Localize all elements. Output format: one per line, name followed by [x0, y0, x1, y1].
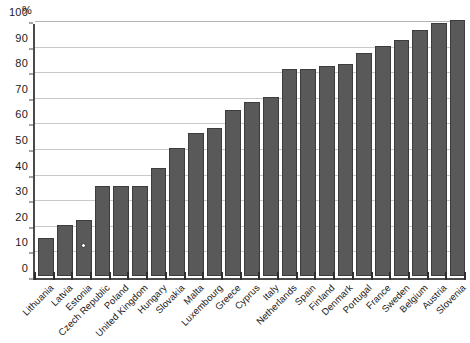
x-tick-mark: [53, 272, 55, 280]
bar-slot: [299, 24, 318, 276]
bar: [412, 30, 428, 276]
bar: [319, 66, 335, 276]
bar-slot: [355, 24, 374, 276]
x-tick-mark: [221, 272, 223, 280]
bar-slot: [37, 24, 56, 276]
bar-chart: % 0102030405060708090100 LithuaniaLatvia…: [0, 0, 470, 343]
y-tick-label-20: 20: [15, 211, 28, 223]
x-tick-mark: [427, 272, 429, 280]
gridline-100: [35, 21, 465, 22]
bar-slot: [149, 24, 168, 276]
bar: [375, 46, 391, 276]
bar-slot: [74, 24, 93, 276]
bar-slot: [224, 24, 243, 276]
x-axis-tick-marks: [33, 272, 465, 282]
bar: [282, 69, 298, 276]
y-tick-label-100: 100: [9, 6, 28, 18]
bar-slot: [336, 24, 355, 276]
bar-slot: [374, 24, 393, 276]
bar: [113, 186, 129, 276]
x-tick-mark: [258, 272, 260, 280]
bar: [151, 168, 167, 276]
bar: [394, 40, 410, 276]
bar-slot: [411, 24, 430, 276]
x-tick-mark: [165, 272, 167, 280]
bar: [244, 102, 260, 276]
bar: [431, 23, 447, 276]
y-tick-label-60: 60: [15, 108, 28, 120]
bar-slot: [280, 24, 299, 276]
x-tick-mark: [389, 272, 391, 280]
bar-slot: [187, 24, 206, 276]
y-tick-label-30: 30: [15, 185, 28, 197]
bar-slot: [317, 24, 336, 276]
bar: [207, 128, 223, 276]
y-tick-label-10: 10: [15, 236, 28, 248]
x-tick-mark: [445, 272, 447, 280]
y-tick-label-70: 70: [15, 83, 28, 95]
x-tick-mark: [240, 272, 242, 280]
x-tick-mark: [184, 272, 186, 280]
x-tick-mark: [109, 272, 111, 280]
bar: [132, 186, 148, 276]
bar: [263, 97, 279, 276]
x-tick-mark: [314, 272, 316, 280]
x-tick-mark: [464, 272, 466, 280]
bar-slot: [56, 24, 75, 276]
x-tick-mark: [352, 272, 354, 280]
plot-area: [33, 24, 465, 280]
x-tick-mark: [408, 272, 410, 280]
y-tick-label-80: 80: [15, 57, 28, 69]
bar: [338, 64, 354, 276]
bar-slot: [392, 24, 411, 276]
bar: [38, 238, 54, 276]
bar: [57, 225, 73, 276]
y-axis-tick-labels: 0102030405060708090100: [0, 24, 33, 280]
bar-series: [37, 24, 465, 276]
bar: [300, 69, 316, 276]
x-tick-mark: [90, 272, 92, 280]
bar: [188, 133, 204, 276]
bar: [169, 148, 185, 276]
y-tick-label-50: 50: [15, 134, 28, 146]
bar: [450, 20, 466, 276]
x-tick-mark: [127, 272, 129, 280]
x-tick-mark: [371, 272, 373, 280]
x-tick-mark: [34, 272, 36, 280]
y-tick-label-90: 90: [15, 32, 28, 44]
bar-slot: [93, 24, 112, 276]
x-tick-mark: [296, 272, 298, 280]
bar-slot: [168, 24, 187, 276]
bar-slot: [430, 24, 449, 276]
y-tick-label-0: 0: [22, 262, 28, 274]
bar-slot: [112, 24, 131, 276]
x-tick-mark: [71, 272, 73, 280]
bar-slot: [261, 24, 280, 276]
bar: [225, 110, 241, 276]
x-tick-mark: [277, 272, 279, 280]
y-tick-label-40: 40: [15, 160, 28, 172]
x-axis-category-labels: LithuaniaLatviaEstoniaCzech RepublicPola…: [33, 282, 465, 343]
bar-slot: [205, 24, 224, 276]
x-tick-mark: [333, 272, 335, 280]
x-tick-mark: [202, 272, 204, 280]
bar: [95, 186, 111, 276]
bar: [76, 220, 92, 276]
x-tick-mark: [146, 272, 148, 280]
bar-slot: [130, 24, 149, 276]
bar: [356, 53, 372, 276]
bar-slot: [448, 24, 467, 276]
bar-slot: [243, 24, 262, 276]
